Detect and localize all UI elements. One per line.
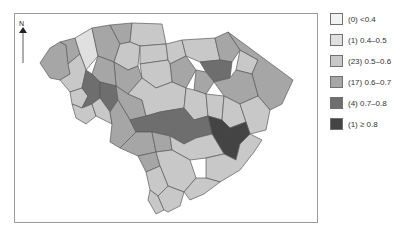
legend-label: (4) 0.7–0.8 — [348, 99, 387, 108]
legend-label: (17) 0.6–0.7 — [348, 78, 391, 87]
legend-swatch — [330, 34, 343, 46]
county-region — [40, 42, 70, 80]
north-arrow-icon — [18, 27, 28, 63]
legend-swatch — [330, 97, 343, 109]
north-arrow: N — [18, 20, 28, 62]
legend-label: (1) 0.4–0.5 — [348, 36, 387, 45]
legend-swatch — [330, 13, 343, 25]
legend-item: (4) 0.7–0.8 — [330, 95, 402, 111]
county-region — [72, 104, 96, 124]
legend: (0) <0.4 (1) 0.4–0.5 (23) 0.5–0.6 (17) 0… — [330, 11, 402, 137]
legend-item: (17) 0.6–0.7 — [330, 74, 402, 90]
legend-item: (1) 0.4–0.5 — [330, 32, 402, 48]
legend-swatch — [330, 118, 343, 130]
legend-label: (23) 0.5–0.6 — [348, 57, 391, 66]
legend-swatch — [330, 55, 343, 67]
legend-label: (0) <0.4 — [348, 15, 376, 24]
legend-item: (0) <0.4 — [330, 11, 402, 27]
legend-item: (1) ≥ 0.8 — [330, 116, 402, 132]
choropleth-map — [38, 20, 298, 220]
county-region — [130, 23, 166, 46]
legend-swatch — [330, 76, 343, 88]
north-label: N — [19, 20, 24, 27]
legend-item: (23) 0.5–0.6 — [330, 53, 402, 69]
legend-label: (1) ≥ 0.8 — [348, 120, 378, 129]
